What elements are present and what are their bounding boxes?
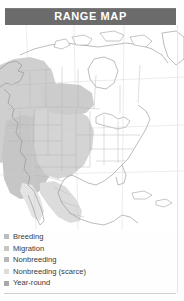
- legend-label-breeding: Breeding: [13, 231, 43, 243]
- legend-item-breeding[interactable]: Breeding: [0, 231, 184, 243]
- legend-item-nonbreeding[interactable]: Nonbreeding: [0, 254, 184, 266]
- page-title: RANGE MAP: [54, 8, 127, 25]
- range-map-card: RANGE MAP: [0, 0, 184, 301]
- florida: [116, 165, 126, 185]
- arctic-island-4: [54, 39, 70, 49]
- north-america-map[interactable]: [0, 25, 184, 230]
- arctic-island-3: [130, 35, 152, 47]
- caribbean-island-1: [132, 191, 152, 199]
- hudson-bay: [88, 57, 118, 89]
- arctic-island-1: [72, 35, 92, 45]
- legend-label-nonbreeding: Nonbreeding: [13, 254, 57, 266]
- legend-label-migration: Migration: [13, 243, 44, 255]
- legend-swatch-breeding: [4, 234, 9, 239]
- arctic-island-2: [100, 31, 124, 41]
- great-lakes: [96, 113, 130, 129]
- gulf-of-mexico: [62, 175, 96, 185]
- card-right-edge: [177, 25, 178, 293]
- map-legend: Breeding Migration Nonbreeding Nonbreedi…: [0, 231, 184, 291]
- range-shape-central: [34, 107, 94, 179]
- legend-item-nonbreeding-scarce[interactable]: Nonbreeding (scarce): [0, 266, 184, 278]
- legend-item-year-round[interactable]: Year-round: [0, 277, 184, 289]
- legend-label-year-round: Year-round: [13, 277, 50, 289]
- legend-swatch-migration: [4, 246, 9, 251]
- legend-swatch-year-round: [4, 281, 9, 286]
- range-map-header: RANGE MAP: [5, 8, 176, 25]
- legend-item-migration[interactable]: Migration: [0, 243, 184, 255]
- legend-swatch-nonbreeding: [4, 257, 9, 262]
- map-container[interactable]: [0, 25, 184, 230]
- legend-swatch-nonbreeding-scarce: [4, 269, 9, 274]
- legend-label-nonbreeding-scarce: Nonbreeding (scarce): [13, 266, 86, 278]
- caribbean-island-2: [156, 199, 172, 207]
- footer-divider: [4, 293, 176, 294]
